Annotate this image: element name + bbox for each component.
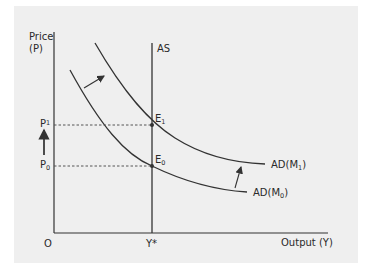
y-axis-label-symbol: (P): [29, 43, 43, 54]
p1-label: P1: [40, 118, 50, 129]
ad-m0-curve: [70, 70, 247, 192]
shift-arrow-icon: [84, 76, 104, 88]
as-label: AS: [157, 43, 170, 54]
ad-as-diagram: Price (P) AS E1 E0 P1 P0 AD(M1) AD(M0) O…: [0, 0, 370, 270]
e1-point: [150, 123, 154, 127]
p0-label: P0: [40, 159, 50, 172]
ad-m0-label: AD(M0): [253, 187, 288, 200]
y-axis-label: Price: [29, 31, 53, 42]
e0-label: E0: [155, 154, 165, 167]
x-axis-label: Output (Y): [281, 237, 333, 248]
y-star-label: Y*: [145, 238, 157, 249]
e0-point: [150, 164, 154, 168]
ad-m1-label: AD(M1): [271, 159, 306, 172]
shift-arrow-icon: [235, 167, 241, 188]
origin-label: O: [44, 238, 52, 249]
ad-m1-curve: [95, 43, 265, 164]
